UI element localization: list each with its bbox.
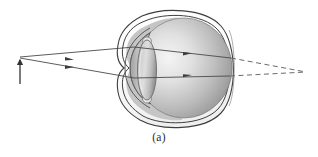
eyeball-group [117,10,234,127]
figure-caption: (a) [0,131,318,143]
ray-upper-incident-arrowhead [65,57,74,61]
figure-root: (a) [0,0,318,157]
dashed-extensions [230,58,306,76]
dashed-lower-extension [230,72,306,76]
dashed-upper-extension [231,58,306,72]
ray-lower-incident-arrowhead [65,65,74,69]
ray-lower-incident [20,58,134,78]
